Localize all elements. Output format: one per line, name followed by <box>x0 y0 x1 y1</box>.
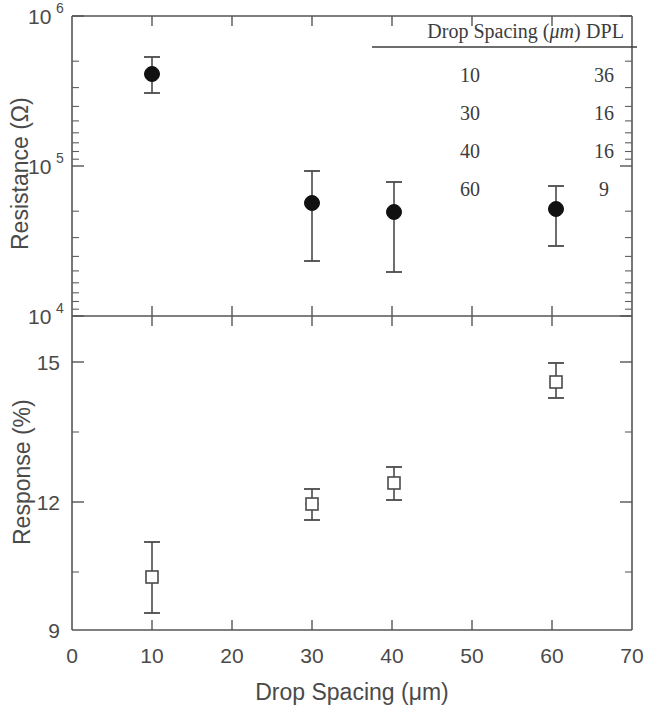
data-point-bottom-60um <box>548 363 564 398</box>
legend-row-1-dpl: 36 <box>594 64 614 86</box>
data-point-bottom-40um <box>386 467 402 500</box>
bottom-panel-y-ticks <box>72 362 632 572</box>
legend-row-3-spacing: 40 <box>460 140 480 162</box>
legend-row-2-spacing: 30 <box>460 102 480 124</box>
xtick-20: 20 <box>220 644 243 667</box>
legend-header-drop-spacing-post: ) <box>574 20 581 43</box>
figure-container: 10 6 10 5 10 4 Resistance (Ω) <box>0 0 649 710</box>
legend-row-1: 10 36 <box>460 64 614 86</box>
bottom-panel-x-ticks <box>152 316 552 630</box>
top-ytick-1e4-exponent: 4 <box>56 300 64 316</box>
xtick-30: 30 <box>300 644 323 667</box>
bottom-ytick-9: 9 <box>48 619 60 642</box>
legend-header-drop-spacing-unit: μm <box>549 20 574 43</box>
data-point-top-10um <box>144 57 160 93</box>
bottom-ytick-15: 15 <box>37 351 60 374</box>
bottom-ytick-12: 12 <box>37 491 60 514</box>
legend-header-drop-spacing-pre: Drop Spacing ( <box>427 20 550 43</box>
top-ytick-1e6-exponent: 6 <box>56 0 64 16</box>
xtick-60: 60 <box>540 644 563 667</box>
top-panel-y-tick-labels: 10 6 10 5 10 4 <box>28 0 64 328</box>
legend-row-4-dpl: 9 <box>599 178 609 200</box>
top-panel-frame <box>72 16 632 316</box>
top-panel-y-axis-title: Resistance (Ω) <box>7 97 33 250</box>
xtick-70: 70 <box>620 644 643 667</box>
x-axis-tick-labels: 0 10 20 30 40 50 60 70 <box>66 644 644 667</box>
top-ytick-1e6-mantissa: 10 <box>28 5 51 28</box>
data-point-top-30um <box>304 171 320 261</box>
top-ytick-1e4-mantissa: 10 <box>28 305 51 328</box>
legend-row-4-spacing: 60 <box>460 178 480 200</box>
data-point-bottom-30um <box>304 489 320 520</box>
legend-table: Drop Spacing (μm) DPL 10 36 30 16 40 16 … <box>372 20 637 200</box>
top-ytick-1e5-exponent: 5 <box>56 150 64 166</box>
legend-row-4: 60 9 <box>460 178 609 200</box>
bottom-panel-y-tick-labels: 15 12 9 <box>37 351 60 642</box>
x-axis-title: Drop Spacing (μm) <box>255 679 448 705</box>
legend-header-dpl: DPL <box>586 20 624 42</box>
top-panel-data-series <box>144 57 564 272</box>
bottom-panel-data-series <box>144 363 564 613</box>
data-point-top-60um <box>548 186 564 246</box>
data-point-top-40um <box>386 182 402 272</box>
legend-row-3: 40 16 <box>460 140 614 162</box>
two-panel-scatter-figure: 10 6 10 5 10 4 Resistance (Ω) <box>0 0 649 710</box>
xtick-50: 50 <box>460 644 483 667</box>
xtick-0: 0 <box>66 644 78 667</box>
xtick-10: 10 <box>140 644 163 667</box>
legend-header-drop-spacing-group: Drop Spacing (μm) <box>427 20 580 43</box>
legend-row-1-spacing: 10 <box>460 64 480 86</box>
top-panel-y-ticks <box>72 16 632 316</box>
legend-row-3-dpl: 16 <box>594 140 614 162</box>
data-point-bottom-10um <box>144 542 160 613</box>
bottom-panel-y-axis-title: Response (%) <box>9 399 35 545</box>
legend-row-2-dpl: 16 <box>594 102 614 124</box>
legend-row-2: 30 16 <box>460 102 614 124</box>
xtick-40: 40 <box>380 644 403 667</box>
top-panel-x-ticks <box>152 16 552 316</box>
